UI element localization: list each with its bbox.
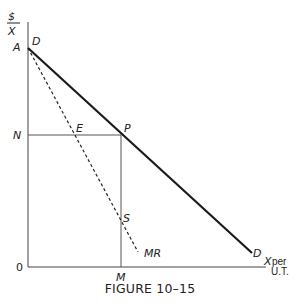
demand-label-end: D xyxy=(253,247,261,260)
label-p: P xyxy=(124,122,131,135)
origin-label: 0 xyxy=(16,261,23,274)
label-s: S xyxy=(123,212,130,225)
demand-curve xyxy=(28,48,252,253)
label-n: N xyxy=(13,129,21,142)
label-e: E xyxy=(76,122,83,135)
label-a: A xyxy=(12,41,21,54)
demand-label-start: D xyxy=(32,35,40,48)
economics-diagram: $ X A N 0 M D E P S MR D X per U.T. FIGU… xyxy=(0,0,300,307)
mr-label: MR xyxy=(144,247,161,260)
y-axis-label-dollar: $ xyxy=(8,10,15,23)
x-axis-label-ut: U.T. xyxy=(271,266,289,277)
y-axis-label-x: X xyxy=(7,25,16,38)
figure-caption: FIGURE 10–15 xyxy=(105,281,196,296)
